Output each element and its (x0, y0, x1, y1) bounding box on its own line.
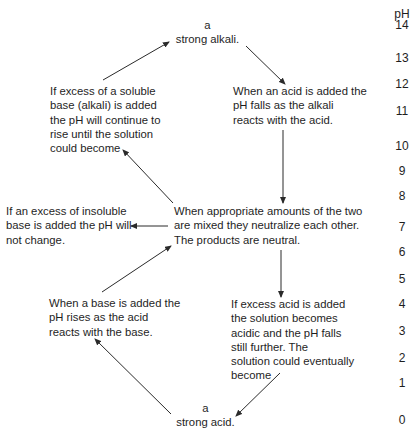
arrow-neutral-to-soluble (123, 150, 173, 203)
strong-alkali-line1: a (170, 18, 245, 32)
ph-8: 8 (390, 189, 414, 203)
text-line: become (231, 368, 354, 382)
arrow-soluble-to-alkali (103, 42, 169, 80)
node-strong-alkali: a strong alkali. (170, 18, 245, 47)
ph-0: 0 (390, 413, 414, 427)
text-line: The products are neutral. (174, 233, 362, 247)
ph-14: 14 (390, 18, 414, 32)
text-line: the solution becomes (231, 311, 354, 325)
text-line: If excess acid is added (231, 297, 354, 311)
node-base-added: When a base is added the pH rises as the… (49, 296, 180, 339)
arrow-strong-acid-to-base-added (95, 339, 171, 414)
text-line: base is added the pH will (6, 218, 132, 232)
text-line: could become (50, 141, 161, 155)
text-line: reacts with the base. (49, 325, 180, 339)
ph-3: 3 (390, 324, 414, 338)
arrow-alkali-to-acid-added (246, 46, 285, 84)
ph-7: 7 (390, 220, 414, 234)
ph-6: 6 (390, 245, 414, 259)
text-line: the pH will continue to (50, 113, 161, 127)
ph-1: 1 (390, 376, 414, 390)
text-line: When a base is added the (49, 296, 180, 310)
ph-4: 4 (390, 297, 414, 311)
node-insoluble-base-excess: If an excess of insoluble base is added … (6, 204, 132, 247)
ph-11: 11 (390, 104, 414, 118)
node-strong-acid: a strong acid. (168, 401, 243, 430)
text-line: base (alkali) is added (50, 98, 161, 112)
ph-10: 10 (390, 139, 414, 153)
text-line: rise until the solution (50, 127, 161, 141)
strong-acid-line2: strong acid. (168, 415, 243, 429)
arrow-base-added-to-neutral (102, 246, 171, 292)
strong-acid-line1: a (168, 401, 243, 415)
text-line: When appropriate amounts of the two (174, 204, 362, 218)
node-excess-acid: If excess acid is added the solution bec… (231, 297, 354, 383)
text-line: acidic and the pH falls (231, 326, 354, 340)
text-line: reacts with the acid. (233, 113, 367, 127)
text-line: are mixed they neutralize each other. (174, 218, 362, 232)
text-line: If an excess of insoluble (6, 204, 132, 218)
text-line: pH rises as the acid (49, 310, 180, 324)
ph-5: 5 (390, 272, 414, 286)
ph-12: 12 (390, 77, 414, 91)
text-line: solution could eventually (231, 354, 354, 368)
node-neutralize: When appropriate amounts of the two are … (174, 204, 362, 247)
strong-alkali-line2: strong alkali. (170, 32, 245, 46)
text-line: still further. The (231, 340, 354, 354)
ph-2: 2 (390, 351, 414, 365)
text-line: If excess of a soluble (50, 84, 161, 98)
node-acid-added: When an acid is added the pH falls as th… (233, 84, 367, 127)
ph-9: 9 (390, 164, 414, 178)
text-line: When an acid is added the (233, 84, 367, 98)
text-line: not change. (6, 233, 132, 247)
ph-13: 13 (390, 51, 414, 65)
node-soluble-base-excess: If excess of a soluble base (alkali) is … (50, 84, 161, 155)
text-line: pH falls as the alkali (233, 98, 367, 112)
